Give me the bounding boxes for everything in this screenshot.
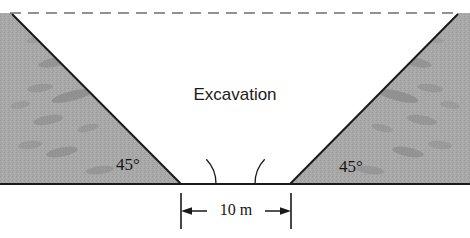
angle-label-right: 45° [339, 157, 363, 176]
soil-mass-right [290, 13, 470, 184]
dimension-label: 10 m [220, 201, 253, 218]
arrowhead-right [280, 207, 291, 215]
excavation-diagram: Excavation 45° 45° 10 m [0, 0, 470, 238]
angle-arc-left [206, 159, 216, 184]
diagram-canvas: Excavation 45° 45° 10 m [0, 0, 470, 238]
arrowhead-left [181, 207, 192, 215]
soil-mass-left [0, 13, 181, 184]
dimension-10m: 10 m [181, 193, 291, 229]
excavation-label: Excavation [193, 85, 276, 104]
angle-label-left: 45° [116, 155, 140, 174]
angle-arc-right [255, 159, 265, 184]
